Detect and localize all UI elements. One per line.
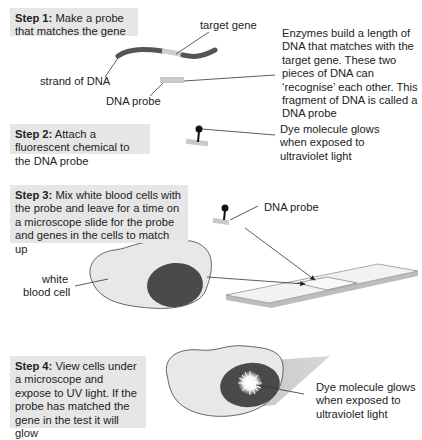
step-2-dye-description: Dye molecule glows when exposed to ultra… [280,123,380,163]
enzyme-description: Enzymes build a length of DNA that match… [282,27,418,121]
step-4-box: Step 4: View cells under a microscope an… [10,356,146,428]
dye-leader-line [202,129,275,135]
target-gene-leader-line [176,32,209,54]
step-3-box: Step 3: Mix white blood cells with the p… [10,185,188,243]
dna-probe-fragment [160,77,184,83]
target-gene-label: target gene [200,19,257,32]
dna-strand [118,50,215,57]
probe-label-leader-line [230,206,258,220]
step-2-box: Step 2: Attach a fluorescent chemical to… [10,124,150,154]
step-2-label: Step 2: [15,128,52,140]
dna-probe-label: DNA probe [106,95,161,108]
step-3-probe-label: DNA probe [264,201,319,214]
white-blood-cell-label-line2: blood cell [23,286,70,299]
microscope-slide [226,264,418,308]
step-1-box: Step 1: Make a probe that matches the ge… [10,8,138,36]
probe-with-dye [186,126,208,147]
cell-to-slide-arrow [207,277,305,284]
step-3-label: Step 3: [15,189,52,201]
probe-with-dye-step3 [213,205,230,226]
strand-of-dna-label: strand of DNA [40,75,110,88]
white-blood-cell-step3 [90,241,212,310]
step-4-label: Step 4: [15,360,52,372]
probe-to-slide-arrow [245,228,315,280]
step-1-label: Step 1: [15,12,52,24]
step-4-dye-description: Dye molecule glows when exposed to ultra… [316,381,420,421]
probe-to-description-line [184,75,275,81]
white-blood-cell-label-line1: white [42,273,68,286]
